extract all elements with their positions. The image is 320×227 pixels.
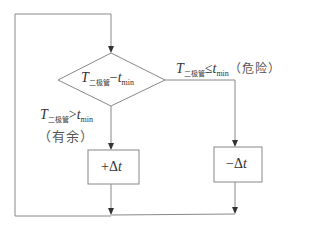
arrow-into-decision <box>108 46 114 53</box>
decision-t-sub: min <box>122 78 134 87</box>
box-plus-label: +Δt <box>101 159 122 175</box>
left-note: （有余） <box>38 126 94 145</box>
decision-T-sub: 二极管 <box>89 79 110 87</box>
decision-T: T <box>81 70 89 85</box>
right-t-sub: min <box>216 69 228 78</box>
box-minus-sign: − <box>226 156 234 171</box>
box-plus-t: t <box>118 159 122 174</box>
right-branch-connector <box>165 80 235 142</box>
left-T-sub: 二极管 <box>48 116 69 124</box>
left-branch-label: T二极管>tmin <box>40 107 93 124</box>
left-t-sub: min <box>81 115 93 124</box>
box-minus-label: −Δt <box>226 156 247 172</box>
decision-label: T二极管−tmin <box>81 70 134 87</box>
arrow-into-right-box <box>232 140 238 147</box>
box-minus-delta: Δ <box>234 156 243 171</box>
left-op: > <box>69 107 77 122</box>
box-plus-sign: + <box>101 159 109 174</box>
box-minus-t: t <box>243 156 247 171</box>
merge-connector <box>111 214 235 215</box>
right-T: T <box>176 61 184 76</box>
arrow-right-output <box>232 207 238 214</box>
right-note: （危险） <box>229 62 281 76</box>
right-T-sub: 二极管 <box>184 70 205 78</box>
left-T: T <box>40 107 48 122</box>
box-plus-delta: Δ <box>109 159 118 174</box>
decision-op: − <box>110 70 118 85</box>
arrow-into-left-box <box>108 143 114 150</box>
right-branch-label: T二极管≤tmin（危险） <box>176 59 281 78</box>
arrow-left-output <box>108 208 114 215</box>
